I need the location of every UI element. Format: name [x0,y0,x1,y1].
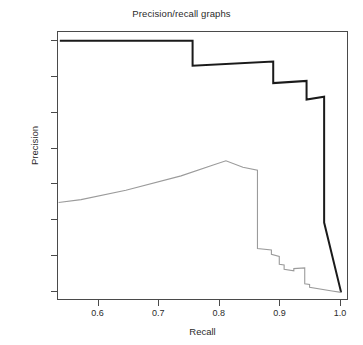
y-tick-mark [51,112,57,113]
y-tick-mark [51,76,57,77]
series-upper-curve [60,41,341,293]
x-tick-label: 0.7 [140,308,176,318]
y-tick-mark [51,291,57,292]
x-tick-label: 0.8 [201,308,237,318]
y-tick-mark [51,219,57,220]
series-lower-curve [59,161,342,293]
y-tick-mark [51,40,57,41]
plot-area [57,31,348,300]
x-tick-label: 0.6 [80,308,116,318]
x-tick-mark [279,300,280,306]
x-tick-mark [98,300,99,306]
y-tick-mark [51,255,57,256]
x-tick-mark [340,300,341,306]
x-tick-mark [219,300,220,306]
y-tick-mark [51,148,57,149]
x-tick-label: 1.0 [322,308,358,318]
chart-title: Precision/recall graphs [0,8,363,19]
x-axis-label: Recall [57,326,348,337]
y-tick-mark [51,183,57,184]
chart-figure: Precision/recall graphs Precision Recall… [0,0,363,345]
plot-svg [58,32,349,301]
y-axis-label: Precision [29,106,40,186]
x-tick-label: 0.9 [261,308,297,318]
x-tick-mark [158,300,159,306]
